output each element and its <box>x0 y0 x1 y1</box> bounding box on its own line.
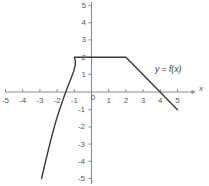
function-graph: -5 -4 -3 -2 -1 0 1 2 3 4 5 5 4 3 2 1 -1 … <box>0 0 209 186</box>
x-tick-label: 2 <box>118 97 134 105</box>
plot-area <box>0 0 209 186</box>
y-tick-label: -1 <box>71 106 85 114</box>
x-tick-label: 5 <box>170 97 186 105</box>
y-tick-label: -5 <box>71 175 85 183</box>
x-tick-label: -1 <box>66 97 82 105</box>
y-tick-label: -4 <box>71 158 85 166</box>
function-curve <box>42 57 178 178</box>
x-axis-label: x <box>199 85 203 93</box>
x-tick-label: 1 <box>101 97 117 105</box>
y-tick-label: -3 <box>71 141 85 149</box>
y-tick-label: 1 <box>72 71 86 79</box>
x-tick-label: -2 <box>49 97 65 105</box>
y-tick-label: 5 <box>72 2 86 10</box>
y-tick-label: 3 <box>72 36 86 44</box>
x-tick-label: 0 <box>85 94 101 102</box>
x-tick-label: 3 <box>135 97 151 105</box>
x-tick-label: -5 <box>0 97 14 105</box>
y-tick-label: 2 <box>72 54 86 62</box>
y-tick-label: -2 <box>71 123 85 131</box>
x-tick-label: -4 <box>15 97 31 105</box>
x-tick-label: 4 <box>152 97 168 105</box>
x-tick-label: -3 <box>32 97 48 105</box>
curve-annotation-label: y = f(x) <box>155 65 181 74</box>
y-tick-label: 4 <box>72 19 86 27</box>
